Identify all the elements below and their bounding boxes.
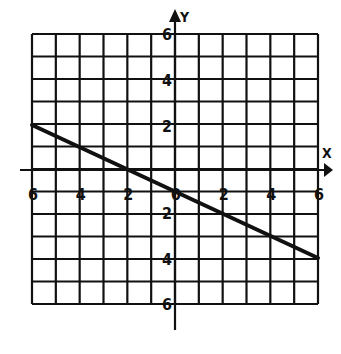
y-tick-label: 4 <box>162 71 172 90</box>
x-axis-arrow-icon <box>324 163 333 177</box>
x-tick-labels: 6420246 <box>28 185 324 204</box>
y-tick-label: 4 <box>162 250 172 269</box>
x-tick-label: 6 <box>28 185 38 204</box>
y-tick-label: 6 <box>162 295 172 314</box>
x-tick-label: 4 <box>76 185 86 204</box>
y-tick-label: 6 <box>162 25 172 44</box>
y-tick-label: 2 <box>162 204 172 223</box>
y-tick-label: 2 <box>162 117 172 136</box>
x-tick-label: 2 <box>123 185 133 204</box>
coordinate-plane: X Y 6420246 642246 <box>0 0 341 354</box>
x-tick-label: 2 <box>219 185 229 204</box>
x-tick-label: 4 <box>266 185 276 204</box>
y-axis-label: Y <box>179 9 190 25</box>
x-tick-label: 6 <box>314 185 324 204</box>
x-axis-label: X <box>322 145 332 161</box>
